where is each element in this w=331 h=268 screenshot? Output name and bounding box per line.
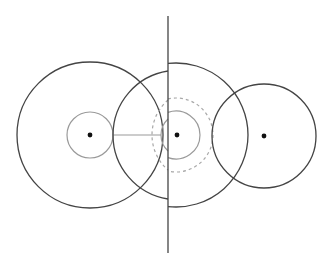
circle-diagram — [0, 0, 331, 268]
middle-inner-right-half-circle — [168, 111, 200, 159]
left-center-dot — [88, 133, 93, 138]
middle-outer-right-half-circle — [168, 63, 248, 207]
middle-center-dot — [175, 133, 180, 138]
right-center-dot — [262, 134, 267, 139]
